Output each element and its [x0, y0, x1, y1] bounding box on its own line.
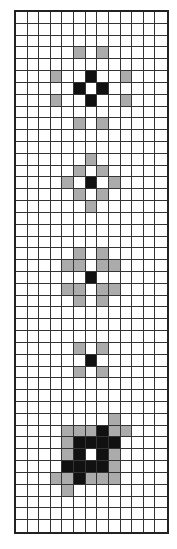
grid-cell-empty	[155, 461, 167, 473]
grid-cell-empty	[109, 213, 121, 225]
cluster-2-cell-shaded	[86, 201, 98, 213]
grid-cell-empty	[51, 248, 63, 260]
grid-cell-empty	[51, 378, 63, 390]
grid-cell-empty	[132, 213, 144, 225]
grid-cell-empty	[86, 319, 98, 331]
grid-cell-empty	[39, 248, 51, 260]
grid-cell-empty	[155, 355, 167, 367]
grid-cell-empty	[51, 520, 63, 532]
grid-cell-empty	[86, 307, 98, 319]
cluster-1-cell-shaded	[51, 95, 63, 107]
grid-cell-empty	[28, 189, 40, 201]
grid-cell-empty	[155, 331, 167, 343]
grid-cell-empty	[97, 355, 109, 367]
grid-cell-empty	[109, 107, 121, 119]
grid-cell-empty	[109, 390, 121, 402]
grid-cell-empty	[62, 497, 74, 509]
grid-cell-empty	[155, 201, 167, 213]
grid-cell-empty	[39, 367, 51, 379]
grid-cell-empty	[51, 107, 63, 119]
grid-cell-empty	[62, 213, 74, 225]
grid-cell-empty	[144, 437, 156, 449]
grid-cell-empty	[144, 213, 156, 225]
cluster-5-cell-shaded	[109, 426, 121, 438]
grid-cell-empty	[62, 107, 74, 119]
grid-cell-empty	[144, 177, 156, 189]
grid-cell-empty	[51, 449, 63, 461]
grid-cell-empty	[51, 237, 63, 249]
cluster-4-cell-shaded	[97, 367, 109, 379]
grid-cell-empty	[16, 508, 28, 520]
grid-cell-empty	[51, 260, 63, 272]
grid-cell-empty	[144, 390, 156, 402]
grid-cell-empty	[121, 225, 133, 237]
cluster-3-cell-shaded	[74, 296, 86, 308]
grid-cell-empty	[121, 213, 133, 225]
cluster-5-cell-shaded	[62, 437, 74, 449]
grid-cell-empty	[74, 71, 86, 83]
grid-cell-empty	[39, 95, 51, 107]
grid-cell-empty	[28, 343, 40, 355]
grid-cell-empty	[28, 497, 40, 509]
grid-cell-empty	[28, 59, 40, 71]
grid-cell-empty	[132, 272, 144, 284]
cluster-5-cell-shaded	[62, 449, 74, 461]
grid-cell-empty	[121, 296, 133, 308]
grid-cell-empty	[109, 296, 121, 308]
grid-cell-empty	[155, 414, 167, 426]
grid-cell-empty	[39, 331, 51, 343]
grid-cell-empty	[109, 47, 121, 59]
grid-cell-empty	[51, 284, 63, 296]
grid-cell-empty	[28, 118, 40, 130]
grid-cell-empty	[16, 402, 28, 414]
grid-cell-empty	[28, 260, 40, 272]
grid-cell-empty	[97, 390, 109, 402]
grid-cell-empty	[74, 355, 86, 367]
grid-cell-empty	[121, 248, 133, 260]
grid-cell-empty	[16, 449, 28, 461]
cluster-2-cell-shaded	[97, 189, 109, 201]
cluster-1-cell-dark	[74, 83, 86, 95]
grid-cell-empty	[16, 390, 28, 402]
grid-cell-empty	[155, 47, 167, 59]
grid-cell-empty	[51, 307, 63, 319]
grid-cell-empty	[39, 237, 51, 249]
cluster-2-cell-shaded	[62, 177, 74, 189]
grid-cell-empty	[39, 355, 51, 367]
grid-cell-empty	[86, 130, 98, 142]
grid-cell-empty	[132, 390, 144, 402]
grid-cell-empty	[155, 130, 167, 142]
grid-cell-empty	[74, 154, 86, 166]
grid-cell-empty	[97, 319, 109, 331]
grid-cell-empty	[39, 319, 51, 331]
grid-cell-empty	[132, 284, 144, 296]
grid-cell-empty	[109, 378, 121, 390]
grid-cell-empty	[39, 83, 51, 95]
grid-cell-empty	[155, 177, 167, 189]
grid-cell-empty	[155, 118, 167, 130]
grid-cell-empty	[16, 47, 28, 59]
grid-cell-empty	[39, 485, 51, 497]
grid-cell-empty	[74, 130, 86, 142]
grid-cell-empty	[62, 24, 74, 36]
grid-cell-empty	[28, 107, 40, 119]
grid-cell-empty	[51, 189, 63, 201]
grid-cell-empty	[155, 437, 167, 449]
grid-cell-empty	[16, 95, 28, 107]
grid-cell-empty	[16, 248, 28, 260]
grid-cell-empty	[51, 225, 63, 237]
grid-cell-empty	[121, 461, 133, 473]
cluster-5-cell-shaded	[121, 426, 133, 438]
grid-cell-empty	[144, 59, 156, 71]
grid-cell-empty	[28, 24, 40, 36]
grid-cell-empty	[28, 437, 40, 449]
grid-cell-empty	[97, 24, 109, 36]
cluster-2-cell-shaded	[74, 189, 86, 201]
grid-cell-empty	[16, 319, 28, 331]
grid-cell-empty	[39, 12, 51, 24]
cell-grid	[14, 10, 169, 534]
grid-cell-empty	[16, 520, 28, 532]
cluster-4-cell-shaded	[74, 367, 86, 379]
grid-cell-empty	[74, 331, 86, 343]
grid-cell-empty	[132, 225, 144, 237]
